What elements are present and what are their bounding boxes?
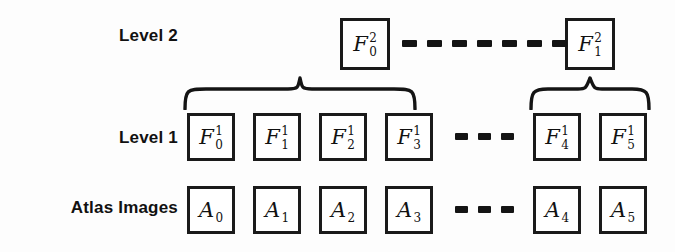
hierarchy-diagram: Level 2 Level 1 Atlas Images F20 F21 F10… xyxy=(0,0,675,252)
row-label-level-1: Level 1 xyxy=(0,128,178,148)
dash-segment xyxy=(502,40,517,47)
node-atlas-A1: A1 xyxy=(253,186,301,234)
ellipsis-level1-gap xyxy=(455,133,514,140)
brace-left-level1-group xyxy=(182,76,418,110)
dash-segment xyxy=(427,40,442,47)
node-atlas-A3: A3 xyxy=(385,186,433,234)
node-atlas-A0: A0 xyxy=(187,186,235,234)
row-label-level-2: Level 2 xyxy=(0,26,178,46)
dash-segment xyxy=(455,206,468,213)
node-atlas-A2: A2 xyxy=(319,186,367,234)
symbol-F1-level1: F11 xyxy=(265,127,289,148)
symbol-A4: A4 xyxy=(545,200,569,221)
node-level1-F5: F15 xyxy=(599,113,647,161)
dash-segment xyxy=(478,206,491,213)
node-level1-F4: F14 xyxy=(533,113,581,161)
brace-right-level1-group xyxy=(528,76,652,110)
symbol-F1-level2: F21 xyxy=(578,34,602,55)
node-atlas-A5: A5 xyxy=(599,186,647,234)
symbol-F2-level1: F12 xyxy=(331,127,355,148)
node-level1-F0: F10 xyxy=(187,113,235,161)
node-level1-F3: F13 xyxy=(385,113,433,161)
node-level2-F1: F21 xyxy=(565,18,615,70)
dash-segment xyxy=(527,40,542,47)
dash-segment xyxy=(552,40,567,47)
symbol-F4-level1: F14 xyxy=(545,127,569,148)
ellipsis-atlas-gap xyxy=(455,206,514,213)
row-label-atlas-images: Atlas Images xyxy=(0,198,178,218)
symbol-F0-level2: F20 xyxy=(353,34,377,55)
symbol-F3-level1: F13 xyxy=(397,127,421,148)
symbol-A3: A3 xyxy=(397,200,421,221)
dash-segment xyxy=(455,133,468,140)
dash-segment xyxy=(477,40,492,47)
brace-left-shape xyxy=(182,76,418,110)
node-level1-F2: F12 xyxy=(319,113,367,161)
dash-segment xyxy=(501,133,514,140)
dash-segment xyxy=(402,40,417,47)
symbol-F0-level1: F10 xyxy=(199,127,223,148)
symbol-A0: A0 xyxy=(199,200,223,221)
dash-segment xyxy=(501,206,514,213)
symbol-A2: A2 xyxy=(331,200,355,221)
dash-segment xyxy=(478,133,491,140)
ellipsis-level2-gap xyxy=(402,40,567,47)
dash-segment xyxy=(452,40,467,47)
brace-right-shape xyxy=(528,76,652,110)
node-level2-F0: F20 xyxy=(340,18,390,70)
symbol-A5: A5 xyxy=(611,200,635,221)
node-atlas-A4: A4 xyxy=(533,186,581,234)
symbol-F5-level1: F15 xyxy=(611,127,635,148)
node-level1-F1: F11 xyxy=(253,113,301,161)
symbol-A1: A1 xyxy=(265,200,289,221)
